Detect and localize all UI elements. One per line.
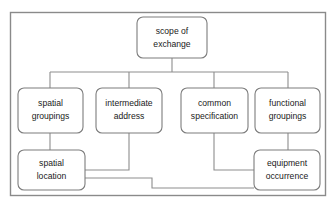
node-equipment-occurrence-line-2: occurrence [266, 171, 309, 181]
node-functional-groupings-line-1: functional [269, 98, 306, 108]
edge-spatial-location-to-equipment-occurrence [85, 178, 254, 188]
diagram-canvas: scope of exchange spatial groupings inte… [0, 0, 336, 211]
node-common-specification-line-1: common [198, 98, 231, 108]
node-scope-of-exchange-box[interactable] [137, 17, 207, 58]
block-diagram: scope of exchange spatial groupings inte… [0, 0, 336, 211]
node-common-specification-line-2: specification [191, 111, 239, 121]
node-functional-groupings-line-2: groupings [269, 111, 307, 121]
node-equipment-occurrence-line-1: equipment [267, 158, 308, 168]
node-common-specification[interactable]: common specification [181, 88, 248, 133]
node-intermediate-address-line-1: intermediate [105, 98, 153, 108]
node-equipment-occurrence[interactable]: equipment occurrence [254, 150, 320, 190]
node-scope-of-exchange-line-2: exchange [153, 39, 190, 49]
node-spatial-location-line-1: spatial [39, 158, 64, 168]
connector-layer [50, 58, 288, 188]
edge-common-specification-to-equipment-occurrence [214, 133, 254, 170]
node-spatial-groupings-line-1: spatial [38, 98, 63, 108]
node-spatial-location[interactable]: spatial location [18, 150, 85, 190]
node-intermediate-address-line-2: address [114, 111, 145, 121]
node-spatial-groupings[interactable]: spatial groupings [18, 88, 83, 133]
node-functional-groupings[interactable]: functional groupings [255, 88, 320, 133]
node-scope-of-exchange-line-1: scope of [156, 26, 189, 36]
node-scope-of-exchange[interactable]: scope of exchange [137, 17, 207, 58]
node-intermediate-address[interactable]: intermediate address [96, 88, 162, 133]
node-spatial-location-line-2: location [37, 171, 67, 181]
node-spatial-groupings-line-2: groupings [32, 111, 70, 121]
edge-intermediate-address-to-spatial-location [85, 133, 129, 170]
